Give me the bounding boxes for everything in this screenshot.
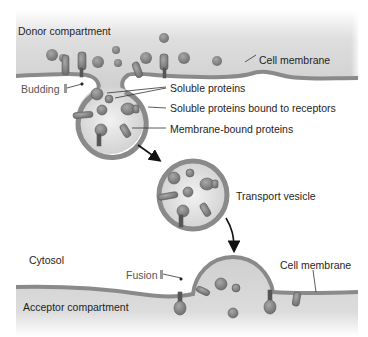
label-cytosol: Cytosol	[29, 255, 64, 266]
label-donor-compartment: Donor compartment	[18, 26, 111, 37]
vesicular-transport-diagram: Donor compartment Cell membrane Budding …	[0, 0, 368, 337]
label-soluble-proteins-bound: Soluble proteins bound to receptors	[170, 103, 336, 114]
label-cell-membrane-bottom: Cell membrane	[280, 260, 351, 271]
arrow-to-acceptor	[226, 218, 234, 250]
label-fusion: Fusion	[126, 270, 158, 281]
label-cell-membrane-top: Cell membrane	[259, 55, 330, 66]
arrow-to-transport-vesicle	[138, 145, 159, 160]
transport-vesicle	[158, 161, 227, 229]
label-acceptor-compartment: Acceptor compartment	[23, 302, 129, 313]
label-transport-vesicle: Transport vesicle	[236, 191, 316, 202]
label-membrane-bound-proteins: Membrane-bound proteins	[170, 124, 293, 135]
label-soluble-proteins: Soluble proteins	[170, 83, 245, 94]
diagram-canvas	[0, 0, 368, 337]
label-budding: Budding	[21, 84, 60, 95]
